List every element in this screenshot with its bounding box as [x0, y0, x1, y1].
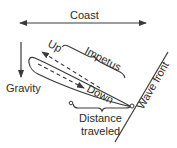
distance-label-line2: traveled	[81, 125, 120, 137]
distance-label-line1: Distance	[79, 112, 122, 124]
down-label: Down	[85, 82, 115, 106]
up-label: Up	[46, 37, 64, 54]
wave-front-label: Wave front	[134, 59, 171, 111]
gravity-label: Gravity	[6, 82, 41, 94]
coast-label: Coast	[70, 9, 99, 21]
swash-diagram: Coast Gravity Wave front Up Down Impetus	[0, 0, 177, 148]
impetus-label: Impetus	[83, 44, 124, 73]
